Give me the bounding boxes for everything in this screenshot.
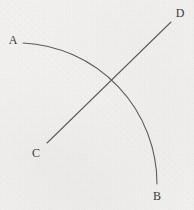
arc-a-to-b <box>23 43 157 184</box>
label-point-d: D <box>176 7 185 19</box>
geometry-drawing-canvas <box>0 0 194 210</box>
label-point-b: B <box>153 190 161 202</box>
label-point-c: C <box>32 147 40 159</box>
line-c-to-d <box>47 22 171 143</box>
geometry-figure: A D C B <box>0 0 194 210</box>
label-point-a: A <box>9 34 18 46</box>
stroke-group <box>23 22 171 184</box>
